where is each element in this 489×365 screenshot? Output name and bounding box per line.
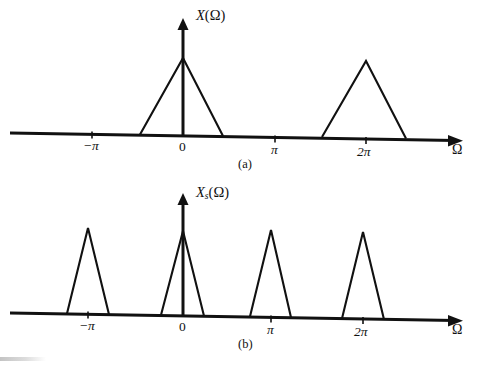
panel-b-tick-label-minus-pi: −π <box>79 319 95 333</box>
panel-b-caption: (b) <box>238 338 253 351</box>
panel-b-tick-label-pi: π <box>267 323 274 337</box>
panel-b-tick-label-zero: 0 <box>179 320 186 334</box>
replica-triangle-minus-pi-b <box>67 228 109 315</box>
panel-a-omega-glyph: Ω <box>210 7 221 23</box>
panel-a-graphics <box>0 0 489 365</box>
panel-a-caption: (a) <box>238 158 252 171</box>
panel-a-lobes <box>140 58 406 139</box>
replica-triangle-2pi-b <box>342 232 384 320</box>
panel-b-close-paren: ) <box>224 184 229 200</box>
panel-a-tick-label-2pi: 2π <box>357 145 371 159</box>
panel-a-series-base: X <box>196 7 205 23</box>
panel-b-omega-glyph: Ω <box>213 184 224 200</box>
panel-b-vertical-axis-label: Xs(Ω) <box>196 185 229 202</box>
replica-triangle-pi-b <box>250 230 291 318</box>
panel-a-horizontal-axis-label: Ω <box>452 143 462 157</box>
panel-b-tick-label-2pi: 2π <box>354 325 368 339</box>
panel-b-horizontal-axis <box>10 313 463 327</box>
panel-b-series-base: X <box>196 184 205 200</box>
panel-a-tick-label-zero: 0 <box>179 140 186 154</box>
panel-a-horizontal-axis <box>10 133 463 147</box>
panel-b-vertical-axis <box>178 193 189 316</box>
panel-a-tick-label-minus-pi: −π <box>83 139 99 153</box>
panel-b-lobes <box>67 228 384 320</box>
panel-a-vertical-axis <box>178 18 189 136</box>
figure-root: X(Ω) −π 0 π 2π Ω (a) Xs(Ω) −π 0 π 2π Ω (… <box>0 0 489 365</box>
replica-triangle-2pi-a <box>322 61 406 139</box>
scan-edge-artifact <box>0 357 46 361</box>
panel-a-vertical-axis-label: X(Ω) <box>196 8 225 23</box>
panel-b-horizontal-axis-label: Ω <box>452 323 462 337</box>
panel-a-tick-label-pi: π <box>271 143 278 157</box>
panel-a-close-paren: ) <box>220 7 225 23</box>
